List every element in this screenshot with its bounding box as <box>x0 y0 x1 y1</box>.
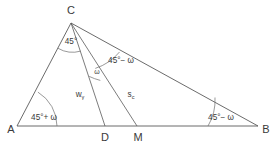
angle-label-acd: 45° <box>65 37 77 46</box>
segment-label-cd: wγ <box>75 90 85 100</box>
diagram-canvas: A B C D M 45°+ ω 45°− ω 45° ω 45°− ω wγ … <box>0 0 275 146</box>
angle-label-b: 45°− ω <box>208 113 234 122</box>
vertex-label-c: C <box>67 4 75 16</box>
vertex-label-m: M <box>133 131 142 143</box>
vertex-label-a: A <box>7 123 15 135</box>
geometry-diagram: A B C D M 45°+ ω 45°− ω 45° ω 45°− ω wγ … <box>0 0 275 146</box>
edge-cm <box>71 23 137 126</box>
angle-arc-dcm <box>89 76 100 80</box>
angle-label-mcb: 45°− ω <box>108 56 134 65</box>
angle-label-dcm: ω <box>94 68 100 75</box>
vertex-label-d: D <box>101 131 109 143</box>
edge-ac <box>17 23 71 126</box>
angle-arc-acd <box>58 48 81 52</box>
segment-label-cm-sub: c <box>132 94 135 100</box>
segment-label-cd-sub: γ <box>82 94 85 100</box>
vertex-label-b: B <box>262 123 269 135</box>
segment-label-cm: sc <box>128 90 135 100</box>
angle-label-a: 45°+ ω <box>31 113 57 122</box>
